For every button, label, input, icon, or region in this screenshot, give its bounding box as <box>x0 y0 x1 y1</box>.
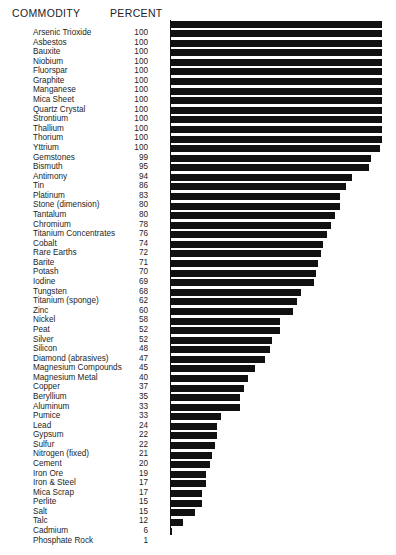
bar <box>170 126 382 133</box>
commodity-label: Thorium <box>33 133 63 143</box>
bar-row <box>170 307 396 317</box>
commodity-label: Nickel <box>33 315 55 325</box>
table-row: Platinum83 <box>0 191 170 201</box>
bar-row <box>170 58 396 68</box>
percent-value: 52 <box>100 335 148 345</box>
bar <box>170 519 183 526</box>
table-row: Diamond (abrasives)47 <box>0 354 170 364</box>
bar-row <box>170 288 396 298</box>
bar <box>170 107 382 114</box>
bar-row <box>170 499 396 509</box>
percent-value: 99 <box>100 153 148 163</box>
bar-row <box>170 145 396 155</box>
bar <box>170 356 265 363</box>
header-percent: PERCENT <box>110 7 163 19</box>
bar <box>170 241 323 248</box>
percent-value: 78 <box>100 220 148 230</box>
bar-row <box>170 346 396 356</box>
bar-row <box>170 20 396 30</box>
table-row: Nickel58 <box>0 315 170 325</box>
table-row: Iron Ore19 <box>0 469 170 479</box>
bar-row <box>170 269 396 279</box>
percent-value: 80 <box>100 210 148 220</box>
percent-value: 94 <box>100 172 148 182</box>
table-row: Asbestos100 <box>0 38 170 48</box>
commodity-label: Silicon <box>33 344 57 354</box>
percent-value: 47 <box>100 354 148 364</box>
percent-value: 86 <box>100 181 148 191</box>
percent-value: 17 <box>100 488 148 498</box>
bar <box>170 442 215 449</box>
bar-row <box>170 87 396 97</box>
commodity-label: Beryllium <box>33 392 67 402</box>
percent-value: 1 <box>100 536 148 546</box>
bar <box>170 289 301 296</box>
percent-value: 37 <box>100 382 148 392</box>
bar <box>170 49 382 56</box>
table-row: Titanium (sponge)62 <box>0 296 170 306</box>
commodity-label: Bismuth <box>33 162 63 172</box>
percent-value: 6 <box>100 526 148 536</box>
table-row: Fluorspar100 <box>0 66 170 76</box>
commodity-label: Cadmium <box>33 526 68 536</box>
bar-row <box>170 432 396 442</box>
commodity-label: Stone (dimension) <box>33 200 99 210</box>
table-row: Quartz Crystal100 <box>0 105 170 115</box>
commodity-label: Manganese <box>33 85 76 95</box>
commodity-label: Diamond (abrasives) <box>33 354 109 364</box>
table-row: Arsenic Trioxide100 <box>0 28 170 38</box>
table-row: Bauxite100 <box>0 47 170 57</box>
percent-value: 12 <box>100 516 148 526</box>
commodity-label: Pumice <box>33 411 60 421</box>
table-row: Potash70 <box>0 267 170 277</box>
table-row: Phosphate Rock1 <box>0 536 170 546</box>
bar-row <box>170 461 396 471</box>
bar <box>170 222 331 229</box>
bar <box>170 193 340 200</box>
bar-row <box>170 106 396 116</box>
bar-row <box>170 365 396 375</box>
table-row: Copper37 <box>0 382 170 392</box>
percent-value: 100 <box>100 124 148 134</box>
bar <box>170 155 371 162</box>
table-row: Tungsten68 <box>0 287 170 297</box>
table-row: Chromium78 <box>0 220 170 230</box>
bar <box>170 500 202 507</box>
commodity-table: Arsenic Trioxide100Asbestos100Bauxite100… <box>0 28 170 545</box>
bar <box>170 375 248 382</box>
bar-row <box>170 451 396 461</box>
commodity-label: Antimony <box>33 172 67 182</box>
table-row: Talc12 <box>0 516 170 526</box>
percent-value: 74 <box>100 239 148 249</box>
commodity-label: Tungsten <box>33 287 67 297</box>
bar <box>170 231 327 238</box>
percent-value: 80 <box>100 200 148 210</box>
bar <box>170 174 352 181</box>
table-row: Beryllium35 <box>0 392 170 402</box>
bar-row <box>170 202 396 212</box>
bar-chart <box>170 20 396 540</box>
percent-value: 17 <box>100 478 148 488</box>
table-row: Niobium100 <box>0 57 170 67</box>
table-row: Rare Earths72 <box>0 248 170 258</box>
commodity-label: Bauxite <box>33 47 60 57</box>
table-row: Thallium100 <box>0 124 170 134</box>
commodity-label: Cobalt <box>33 239 57 249</box>
bar-row <box>170 394 396 404</box>
commodity-label: Phosphate Rock <box>33 536 93 546</box>
header-commodity: COMMODITY <box>12 7 80 19</box>
table-row: Magnesium Compounds45 <box>0 363 170 373</box>
bar-row <box>170 49 396 59</box>
commodity-label: Barite <box>33 258 54 268</box>
percent-value: 33 <box>100 411 148 421</box>
percent-value: 71 <box>100 258 148 268</box>
percent-value: 100 <box>100 143 148 153</box>
percent-value: 100 <box>100 105 148 115</box>
commodity-label: Rare Earths <box>33 248 77 258</box>
bar <box>170 318 280 325</box>
commodity-label: Perlite <box>33 497 56 507</box>
percent-value: 100 <box>100 114 148 124</box>
percent-value: 72 <box>100 248 148 258</box>
bar-series <box>170 20 396 537</box>
bar <box>170 509 195 516</box>
